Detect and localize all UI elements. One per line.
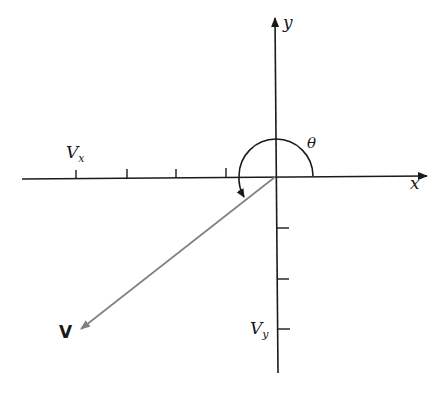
angle-theta-label: θ <box>307 136 316 151</box>
x-axis-label: x <box>410 175 420 192</box>
vx-sub: x <box>78 152 84 165</box>
vy-label: Vy <box>250 320 269 340</box>
vy-sub: y <box>262 328 268 341</box>
vector-v <box>81 177 275 329</box>
y-axis <box>275 18 278 373</box>
vx-label: Vx <box>66 144 85 164</box>
vx-main: V <box>66 142 78 162</box>
vector-v-label: V <box>59 324 72 341</box>
x-axis <box>22 176 427 179</box>
y-axis-label: y <box>283 14 293 31</box>
vy-main: V <box>250 318 262 338</box>
